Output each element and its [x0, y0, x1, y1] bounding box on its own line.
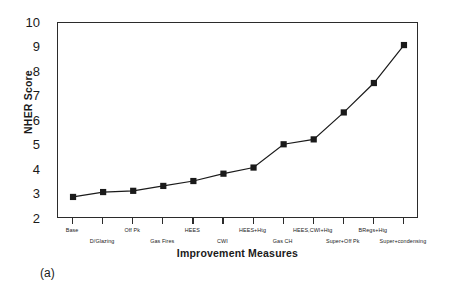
y-tick-label: 3: [10, 187, 40, 200]
x-tick-mark: [283, 218, 284, 224]
x-tick-label: Off Pk: [102, 228, 162, 233]
data-point-marker: [311, 136, 317, 142]
data-point-marker: [220, 171, 226, 177]
y-tick-label: 5: [10, 138, 40, 151]
x-tick-mark: [162, 218, 163, 224]
x-tick-label: Gas Fires: [132, 239, 192, 244]
x-axis-title: Improvement Measures: [57, 247, 418, 259]
y-tick-label: 6: [10, 114, 40, 127]
figure-caption: (a): [40, 266, 55, 280]
x-tick-mark: [373, 218, 374, 224]
data-point-marker: [160, 183, 166, 189]
data-point-marker: [371, 80, 377, 86]
line-series-svg: [58, 23, 419, 219]
x-tick-mark: [403, 218, 404, 224]
x-tick-label: Base: [42, 228, 102, 233]
plot-area: [57, 22, 418, 218]
x-tick-label: Gas CH: [253, 239, 313, 244]
data-point-marker: [250, 164, 256, 170]
y-tick-label: 8: [10, 65, 40, 78]
data-point-marker: [70, 194, 76, 200]
x-tick-mark: [222, 218, 223, 224]
x-tick-mark: [72, 218, 73, 224]
x-tick-mark: [102, 218, 103, 224]
y-tick-label: 7: [10, 89, 40, 102]
x-tick-label: Super+Off Pk: [313, 239, 373, 244]
x-tick-mark: [192, 218, 193, 224]
x-tick-mark: [313, 218, 314, 224]
x-tick-mark: [132, 218, 133, 224]
data-line: [73, 45, 404, 197]
data-point-marker: [190, 178, 196, 184]
x-tick-mark: [253, 218, 254, 224]
data-point-marker: [401, 42, 407, 48]
x-tick-label: D/Glazing: [72, 239, 132, 244]
x-tick-label: Super+condensing: [373, 239, 433, 244]
x-tick-label: HEES,CWI+Htg: [283, 228, 343, 233]
y-tick-label: 2: [10, 212, 40, 225]
data-markers: [70, 42, 407, 200]
data-point-marker: [281, 141, 287, 147]
y-tick-label: 4: [10, 163, 40, 176]
x-tick-label: HEES+Htg: [223, 228, 283, 233]
y-tick-label: 9: [10, 40, 40, 53]
x-tick-mark: [343, 218, 344, 224]
x-tick-label: BRegs+Htg: [343, 228, 403, 233]
data-point-marker: [341, 109, 347, 115]
chart-figure: NHER Score 2345678910 BaseD/GlazingOff P…: [0, 0, 462, 295]
y-tick-label: 10: [10, 16, 40, 29]
x-tick-label: CWI: [192, 239, 252, 244]
data-point-marker: [130, 188, 136, 194]
data-point-marker: [100, 189, 106, 195]
x-tick-label: HEES: [162, 228, 222, 233]
